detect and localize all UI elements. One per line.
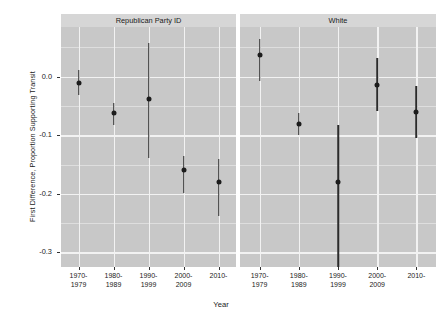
data-point (414, 109, 419, 114)
gridline-vertical (114, 27, 115, 267)
panel-title: White (240, 14, 436, 27)
y-tick-label: -0.2 (16, 189, 52, 198)
gridline-vertical (184, 27, 185, 267)
x-tick-label: 2010- (393, 272, 439, 281)
data-point (76, 80, 81, 85)
y-tick-label: -0.3 (16, 247, 52, 256)
data-point (296, 121, 301, 126)
x-tick-mark (338, 267, 339, 270)
y-tick-mark (57, 135, 60, 136)
y-tick-label: 0.0 (16, 72, 52, 81)
x-tick-mark (260, 267, 261, 270)
x-tick-mark (416, 267, 417, 270)
x-tick-mark (299, 267, 300, 270)
panel-white: White (240, 14, 436, 267)
error-bar (337, 125, 339, 267)
x-tick-mark (377, 267, 378, 270)
data-point (336, 179, 341, 184)
x-tick-label: 2010- (196, 272, 242, 281)
data-point (216, 179, 221, 184)
error-bar (183, 156, 185, 193)
error-bar (259, 39, 261, 81)
y-tick-mark (57, 194, 60, 195)
gridline-vertical (79, 27, 80, 267)
x-axis-title: Year (0, 300, 442, 309)
data-point (146, 97, 151, 102)
gridline-vertical (219, 27, 220, 267)
y-axis-title: First Difference, Proportion Supporting … (28, 22, 37, 272)
data-point (181, 168, 186, 173)
x-tick-mark (114, 267, 115, 270)
data-point (375, 82, 380, 87)
x-tick-mark (184, 267, 185, 270)
data-point (257, 53, 262, 58)
x-tick-mark (79, 267, 80, 270)
error-bar (218, 159, 220, 216)
x-tick-mark (219, 267, 220, 270)
y-tick-mark (57, 252, 60, 253)
data-point (111, 111, 116, 116)
panel-plot-area (240, 27, 436, 267)
panel-title: Republican Party ID (61, 14, 236, 27)
gridline-vertical (416, 27, 417, 267)
y-tick-mark (57, 77, 60, 78)
panel-republican-party-id: Republican Party ID (61, 14, 236, 267)
panel-plot-area (61, 27, 236, 267)
gridline-vertical (299, 27, 300, 267)
x-tick-mark (149, 267, 150, 270)
chart-root: First Difference, Proportion Supporting … (0, 0, 442, 321)
y-tick-label: -0.1 (16, 130, 52, 139)
